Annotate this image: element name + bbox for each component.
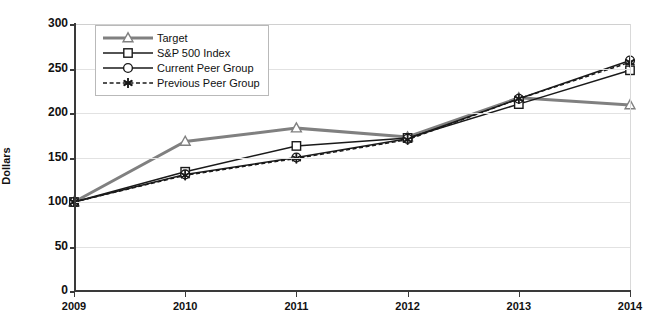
legend-item: Current Peer Group (102, 60, 260, 75)
x-axis-tick-mark (296, 292, 297, 297)
legend-item: S&P 500 Index (102, 45, 260, 60)
legend-swatch (102, 76, 154, 90)
legend-swatch (102, 31, 154, 45)
series-0 (69, 93, 635, 206)
legend-swatch (102, 46, 154, 60)
x-axis-tick-mark (408, 292, 409, 297)
gridline (74, 158, 630, 159)
data-point-square (292, 142, 300, 150)
vertical-gridline (630, 24, 631, 291)
y-axis-tick-label: 0 (0, 283, 68, 297)
legend-swatch (102, 61, 154, 75)
y-axis-tick-label: 100 (0, 194, 68, 208)
legend-label: S&P 500 Index (157, 46, 230, 60)
y-axis-tick-label: 50 (0, 239, 68, 253)
data-point-square (124, 48, 132, 56)
x-axis-tick-label: 2014 (618, 300, 642, 312)
y-axis-tick-label: 300 (0, 16, 68, 30)
legend-item: Previous Peer Group (102, 75, 260, 90)
y-axis-tick-label: 200 (0, 105, 68, 119)
y-axis-line (74, 23, 76, 292)
x-axis-tick-mark (519, 292, 520, 297)
x-axis-tick-mark (630, 292, 631, 297)
legend: TargetS&P 500 IndexCurrent Peer GroupPre… (95, 25, 269, 96)
performance-graph: Dollars 050100150200250300 2009201020112… (0, 0, 656, 332)
x-axis-tick-label: 2011 (284, 300, 308, 312)
x-axis-line (74, 290, 631, 292)
gridline (74, 247, 630, 248)
gridline (74, 202, 630, 203)
legend-label: Current Peer Group (157, 61, 254, 75)
x-axis-tick-label: 2013 (507, 300, 531, 312)
legend-label: Previous Peer Group (157, 76, 260, 90)
gridline (74, 113, 630, 114)
x-axis-tick-label: 2010 (173, 300, 197, 312)
x-axis-tick-mark (74, 292, 75, 297)
x-axis-tick-label: 2012 (395, 300, 419, 312)
x-axis-tick-label: 2009 (62, 300, 86, 312)
legend-label: Target (157, 31, 188, 45)
data-point-circle (124, 63, 133, 72)
y-axis-tick-label: 150 (0, 150, 68, 164)
legend-item: Target (102, 30, 260, 45)
y-axis-tick-label: 250 (0, 61, 68, 75)
x-axis-tick-mark (185, 292, 186, 297)
